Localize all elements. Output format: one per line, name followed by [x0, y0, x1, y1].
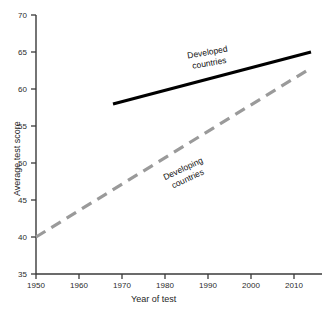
chart-plot-area [0, 0, 328, 312]
x-axis-title: Year of test [131, 294, 176, 304]
x-tick-label-1960: 1960 [66, 281, 92, 290]
series-line-developing-countries [36, 68, 311, 237]
x-tick-label-2010: 2010 [281, 281, 307, 290]
x-tick-label-1970: 1970 [109, 281, 135, 290]
y-tick-label-65: 65 [5, 48, 27, 57]
y-tick-label-45: 45 [5, 196, 27, 205]
x-axis-ticks [36, 274, 294, 279]
y-tick-label-40: 40 [5, 233, 27, 242]
x-tick-label-1980: 1980 [152, 281, 178, 290]
y-axis-title: Average test score [12, 121, 22, 196]
y-axis-ticks [31, 15, 36, 274]
y-tick-label-60: 60 [5, 85, 27, 94]
x-tick-label-2000: 2000 [238, 281, 264, 290]
y-tick-label-70: 70 [5, 11, 27, 20]
x-tick-label-1950: 1950 [23, 281, 49, 290]
chart-figure: 70 65 60 55 50 45 40 35 1950 1960 1970 1… [0, 0, 328, 312]
y-tick-label-35: 35 [5, 270, 27, 279]
x-tick-label-1990: 1990 [195, 281, 221, 290]
